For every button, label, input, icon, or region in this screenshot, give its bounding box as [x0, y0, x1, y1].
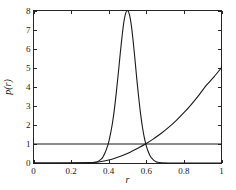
x-tick-label: 0.4 [103, 166, 115, 176]
x-tick-label: 0.2 [65, 166, 76, 176]
x-tick-label: 0.6 [141, 166, 153, 176]
y-tick-label: 1 [26, 139, 31, 149]
y-tick-label: 7 [26, 25, 31, 35]
y-axis-title: p(r) [2, 79, 14, 96]
y-tick-label: 8 [26, 6, 31, 16]
x-tick-label: 0 [31, 166, 36, 176]
x-tick-label: 1 [219, 166, 224, 176]
x-tick-label: 0.8 [178, 166, 190, 176]
figure-background [0, 0, 236, 190]
y-tick-label: 4 [26, 82, 31, 92]
y-tick-label: 5 [26, 63, 31, 73]
y-tick-labels: 012345678 [26, 6, 31, 169]
x-axis-title: r [126, 174, 130, 185]
y-tick-label: 6 [26, 44, 31, 54]
y-tick-label: 0 [26, 158, 31, 168]
chart-canvas: 00.20.40.60.81 012345678 r p(r) [0, 0, 236, 190]
y-tick-label: 2 [26, 120, 31, 130]
y-tick-label: 3 [26, 101, 31, 111]
figure-container: 00.20.40.60.81 012345678 r p(r) [0, 0, 236, 190]
